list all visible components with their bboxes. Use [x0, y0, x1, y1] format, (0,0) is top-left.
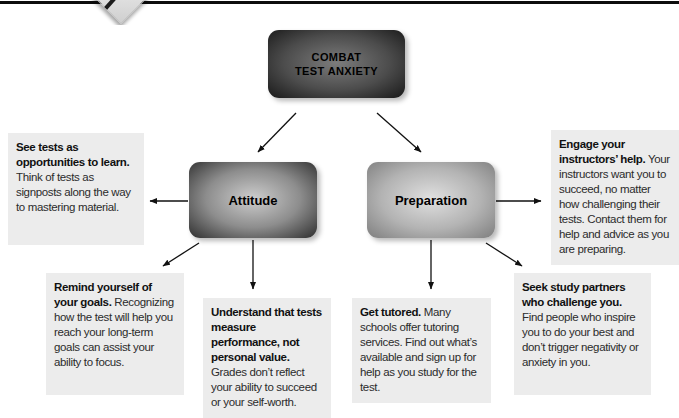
note-engage-instructors: Engage your instructors’ help. Your inst… — [551, 130, 679, 265]
arrow-preparation-to-seek — [486, 243, 522, 266]
attitude-box: Attitude — [189, 162, 317, 238]
note-understand-tests: Understand that tests measure performanc… — [203, 298, 331, 418]
note-see-tests-body: Think of tests as signposts along the wa… — [16, 171, 131, 213]
note-get-tutored: Get tutored. Many schools offer tutoring… — [352, 298, 491, 403]
arrow-attitude-to-remind — [163, 243, 199, 266]
combat-test-anxiety-box: COMBAT TEST ANXIETY — [268, 30, 405, 98]
note-remind-goals: Remind yourself of your goals. Recognizi… — [46, 273, 184, 395]
note-see-tests-lead: See tests as opportunities to learn. — [16, 141, 129, 168]
note-seek-partners: Seek study partners who challenge you. F… — [514, 273, 651, 395]
page-marker — [58, 0, 182, 25]
note-seek-partners-body: Find people who inspire you to do your b… — [522, 311, 638, 368]
preparation-box: Preparation — [367, 162, 495, 238]
note-engage-instructors-body: Your instructors want you to succeed, no… — [559, 153, 670, 255]
root-box-label: COMBAT TEST ANXIETY — [295, 50, 378, 78]
diamond-marker-icon — [93, 0, 150, 24]
note-understand-tests-body: Grades don’t reflect your ability to suc… — [211, 366, 317, 408]
note-engage-instructors-lead: Engage your instructors’ help. — [559, 138, 645, 165]
arrow-root-to-attitude — [258, 113, 296, 152]
attitude-box-label: Attitude — [228, 193, 277, 208]
note-understand-tests-lead: Understand that tests measure performanc… — [211, 306, 322, 363]
arrow-root-to-preparation — [377, 113, 421, 152]
note-seek-partners-lead: Seek study partners who challenge you. — [522, 281, 625, 308]
note-see-tests: See tests as opportunities to learn. Thi… — [8, 133, 144, 245]
note-get-tutored-lead: Get tutored. — [360, 306, 421, 318]
preparation-box-label: Preparation — [395, 193, 467, 208]
note-get-tutored-body: Many schools offer tutoring services. Fi… — [360, 306, 477, 393]
